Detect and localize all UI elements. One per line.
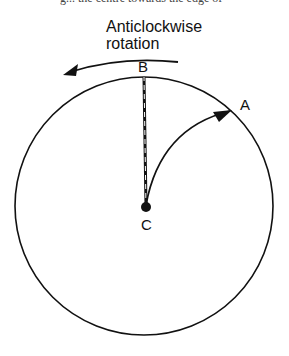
label-a: A: [240, 96, 250, 113]
rotation-diagram: [0, 0, 289, 356]
path-arrowhead-icon: [213, 110, 232, 122]
anticlockwise-arrowhead-icon: [63, 64, 78, 76]
label-b: B: [138, 58, 148, 75]
anticlockwise-arc: [70, 60, 178, 72]
centre-dot: [141, 202, 151, 212]
path-c-to-a: [146, 111, 230, 205]
label-c: C: [141, 216, 152, 233]
